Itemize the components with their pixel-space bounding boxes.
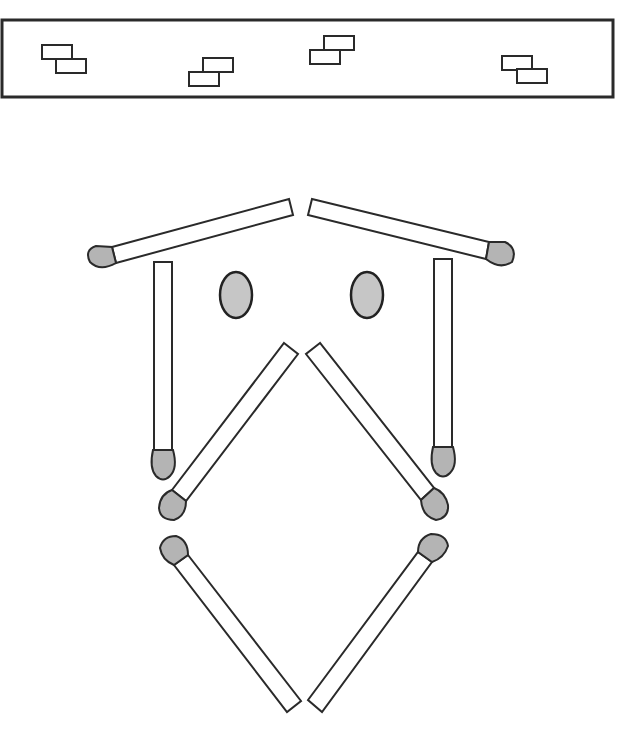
stick-body [308, 552, 432, 712]
matchstick-inner-upper-left[interactable] [159, 343, 298, 520]
matchstick-roof-right[interactable] [308, 199, 514, 265]
brick [517, 69, 547, 83]
stick-body [154, 262, 172, 450]
brick [502, 56, 532, 70]
eye-right-icon [351, 272, 383, 318]
brick [310, 50, 340, 64]
brick [189, 72, 219, 86]
stick-body [112, 199, 293, 263]
matchstick-side-left[interactable] [152, 262, 175, 480]
eye-left-icon [220, 272, 252, 318]
match-head-icon [152, 450, 175, 480]
stick-body [434, 259, 452, 447]
match-head-icon [88, 246, 116, 267]
brick [324, 36, 354, 50]
brick [203, 58, 233, 72]
stick-body [172, 343, 298, 501]
brick [56, 59, 86, 73]
stick-body [174, 555, 301, 712]
match-head-icon [432, 447, 455, 477]
matchstick-lower-right[interactable] [308, 534, 448, 712]
stick-body [308, 199, 489, 259]
stick-body [306, 343, 434, 500]
brick [42, 45, 72, 59]
matchstick-lower-left[interactable] [160, 536, 301, 712]
matchstick-roof-left[interactable] [88, 199, 293, 267]
matchstick-puzzle-diagram [0, 0, 621, 748]
brick-box [2, 20, 613, 97]
match-head-icon [486, 242, 514, 265]
matchstick-inner-upper-right[interactable] [306, 343, 448, 520]
matchstick-side-right[interactable] [432, 259, 455, 477]
